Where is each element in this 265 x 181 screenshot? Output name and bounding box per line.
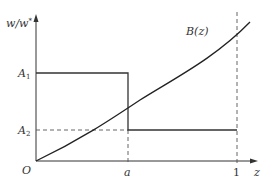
x-axis-arrow-icon [250,159,258,164]
tick-label-1: 1 [233,166,240,179]
x-axis-label: z [253,166,260,179]
step-function-line [36,73,237,130]
origin-label: O [22,164,31,177]
b-z-curve [36,22,250,161]
tick-label-a: a [124,166,131,179]
chart-canvas: w/w* z O a 1 A1 A2 B(z) [0,0,265,181]
tick-label-a2: A2 [17,124,30,138]
curve-label-b-z: B(z) [185,25,208,38]
y-axis-arrow-icon [34,14,39,22]
tick-label-a1: A1 [17,67,30,81]
y-axis-label: w/w* [6,17,33,30]
